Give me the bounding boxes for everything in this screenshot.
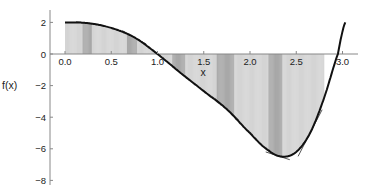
x-tick-label: 0.0 <box>58 56 71 67</box>
y-tick-label: 2 <box>41 17 46 28</box>
y-tick-label: −4 <box>35 112 46 123</box>
y-tick-label: −6 <box>35 143 46 154</box>
y-tick-label: −8 <box>35 175 46 186</box>
y-tick-label: −2 <box>35 80 46 91</box>
x-tick-label: 0.5 <box>105 56 118 67</box>
y-axis-label: f(x) <box>2 79 17 91</box>
shaded-region <box>65 22 324 156</box>
x-axis-label: x <box>200 66 206 78</box>
x-tick-label: 2.0 <box>243 56 256 67</box>
chart: 0.00.51.01.52.02.53.020−2−4−6−8 x f(x) <box>0 0 371 194</box>
y-tick-label: 0 <box>41 49 46 60</box>
x-tick-label: 1.0 <box>151 56 164 67</box>
x-tick-label: 3.0 <box>336 56 349 67</box>
x-tick-label: 2.5 <box>290 56 303 67</box>
